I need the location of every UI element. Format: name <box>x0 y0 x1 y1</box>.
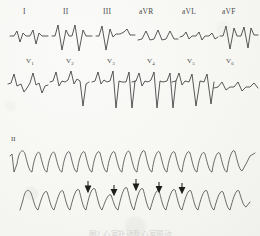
lead-label-iii: III <box>103 8 111 16</box>
rhythm-lower-trace <box>0 176 260 226</box>
marker-arrow-2 <box>111 185 116 195</box>
lead-label-avl: aVL <box>182 8 196 16</box>
lead-sub-v3: 3 <box>112 61 115 66</box>
figure-caption: 图2 心室扑动及心室颤动 <box>0 228 260 236</box>
marker-arrow-5 <box>179 183 184 193</box>
rhythm-strip-lower <box>0 176 260 226</box>
lead-label-ii: II <box>63 8 68 16</box>
lead-label-v3: V3 <box>107 58 115 65</box>
marker-arrow-3 <box>133 179 138 190</box>
lead-label-v2: V2 <box>66 58 74 65</box>
lead-sub-v4: 4 <box>152 61 155 66</box>
lead-sub-v5: 5 <box>192 61 195 66</box>
lead-label-v6: V6 <box>226 58 234 65</box>
lead-label-v4: V4 <box>147 58 155 65</box>
limb-leads-row: I II III aVR aVL aVF <box>0 0 260 58</box>
lead-sub-v1: 1 <box>31 61 34 66</box>
lead-label-i: I <box>23 8 26 16</box>
precordial-leads-row: V1 V2 V3 V4 V5 V6 <box>0 56 260 118</box>
lead-label-avf: aVF <box>222 8 236 16</box>
lead-label-v1: V1 <box>26 58 34 65</box>
lead-label-avr: aVR <box>139 8 153 16</box>
lead-sub-v6: 6 <box>231 61 234 66</box>
marker-arrow-1 <box>85 181 90 192</box>
lead-sub-v2: 2 <box>71 61 74 66</box>
ecg-figure: I II III aVR aVL aVF V1 V2 V3 V4 V5 V6 <box>0 0 260 236</box>
rhythm-strip-upper: II <box>0 132 260 180</box>
limb-leads-trace <box>0 20 260 58</box>
lead-label-v5: V5 <box>187 58 195 65</box>
precordial-leads-trace <box>0 68 260 116</box>
